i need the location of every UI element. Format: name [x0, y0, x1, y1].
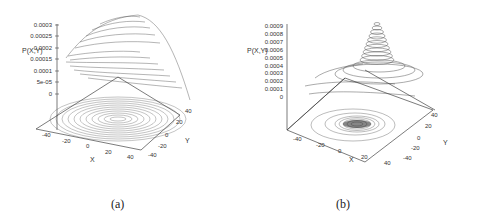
svg-text:0.0001: 0.0001 [265, 86, 284, 92]
surface-plot-a: 0.0003 0.00025 0.0002 0.00015 0.0001 5e-… [0, 0, 240, 221]
svg-text:0: 0 [417, 135, 421, 141]
svg-text:0.0003: 0.0003 [265, 70, 284, 76]
chart-panel-a: 0.0003 0.00025 0.0002 0.00015 0.0001 5e-… [0, 0, 240, 221]
svg-text:-20: -20 [62, 138, 71, 144]
svg-text:0.0005: 0.0005 [265, 55, 284, 61]
surface-plot-b: 0.0009 0.0008 0.0007 0.0006 0.0005 0.000… [245, 0, 483, 221]
svg-text:P(X,Y): P(X,Y) [247, 47, 268, 55]
svg-text:Y: Y [185, 137, 190, 144]
svg-text:20: 20 [425, 123, 432, 129]
svg-text:-20: -20 [411, 145, 420, 151]
svg-text:0.00015: 0.00015 [30, 56, 52, 62]
svg-text:-20: -20 [158, 143, 167, 149]
svg-text:0.0003: 0.0003 [34, 22, 53, 28]
svg-text:0: 0 [86, 143, 90, 149]
svg-text:40: 40 [127, 154, 134, 160]
svg-text:0: 0 [49, 91, 53, 97]
svg-text:0.0009: 0.0009 [265, 23, 284, 29]
svg-text:-20: -20 [316, 142, 325, 148]
svg-text:20: 20 [176, 119, 183, 125]
svg-text:-40: -40 [293, 136, 302, 142]
svg-text:X: X [90, 156, 95, 163]
svg-text:0.00025: 0.00025 [30, 33, 52, 39]
svg-text:-40: -40 [403, 155, 412, 161]
svg-text:-40: -40 [42, 132, 51, 138]
svg-text:0.0008: 0.0008 [265, 31, 284, 37]
caption-b: (b) [336, 197, 350, 212]
svg-text:40: 40 [431, 112, 438, 118]
svg-text:5e-05: 5e-05 [37, 79, 53, 85]
svg-text:0.0002: 0.0002 [265, 78, 284, 84]
svg-text:P(X,Y): P(X,Y) [22, 47, 43, 55]
svg-text:40: 40 [185, 108, 192, 114]
svg-text:40: 40 [384, 160, 391, 166]
chart-panel-b: 0.0009 0.0008 0.0007 0.0006 0.0005 0.000… [245, 0, 483, 221]
svg-text:20: 20 [361, 154, 368, 160]
svg-text:Y: Y [443, 139, 448, 146]
svg-text:X: X [349, 156, 354, 163]
svg-text:0.0007: 0.0007 [265, 39, 284, 45]
svg-text:0: 0 [338, 148, 342, 154]
svg-text:-40: -40 [148, 152, 157, 158]
svg-text:0: 0 [165, 132, 169, 138]
svg-text:0.0001: 0.0001 [34, 68, 53, 74]
svg-text:0.0004: 0.0004 [265, 63, 284, 69]
svg-text:20: 20 [105, 149, 112, 155]
caption-a: (a) [111, 197, 124, 212]
svg-text:0: 0 [280, 94, 284, 100]
